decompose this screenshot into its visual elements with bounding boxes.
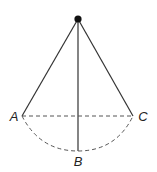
- label-b: B: [74, 154, 83, 169]
- label-c: C: [138, 109, 148, 124]
- label-a: A: [9, 109, 19, 124]
- string-to-a: [22, 19, 78, 116]
- pendulum-diagram: A B C: [0, 0, 157, 172]
- string-to-c: [78, 19, 133, 116]
- pivot-point: [74, 15, 81, 22]
